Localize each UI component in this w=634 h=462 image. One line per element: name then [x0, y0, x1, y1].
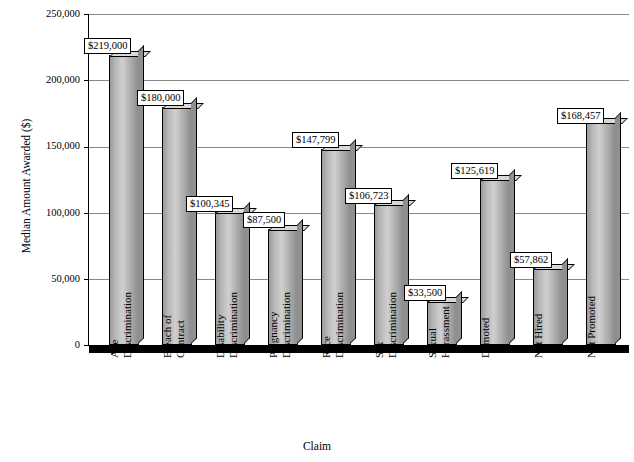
y-tick-mark-100000	[84, 213, 89, 214]
bar-side-face	[191, 97, 197, 344]
x-label-line: Contract	[174, 315, 187, 358]
gridline-200000	[89, 80, 629, 81]
x-label-sex-discrimination: Sex Discrimination	[373, 292, 398, 358]
y-tick-label-200000: 200,000	[30, 74, 80, 85]
value-label-disability-discrimination: $100,345	[186, 196, 233, 212]
y-tick-label-50000: 50,000	[30, 273, 80, 284]
bar-side-face	[297, 219, 303, 344]
x-label-breach-of-contract: Breach of Contract	[161, 315, 186, 358]
value-label-pregnancy-discrimination: $87,500	[243, 212, 285, 228]
x-label-line: Harassment	[439, 306, 452, 358]
x-label-line: Discrimination	[386, 292, 399, 358]
x-label-disability-discrimination: Disability Discrimination	[214, 292, 239, 358]
bar-side-face	[350, 139, 356, 344]
bar-breach-of-contract	[162, 107, 192, 345]
bar-side-face	[615, 112, 621, 344]
bar-side-face	[562, 258, 568, 344]
y-tick-label-0: 0	[30, 339, 80, 350]
value-label-sex-discrimination: $106,723	[345, 188, 392, 204]
x-label-line: Discrimination	[280, 292, 293, 358]
value-label-age-discrimination: $219,000	[84, 38, 131, 54]
x-label-line: Age	[108, 292, 121, 358]
value-label-demoted: $125,619	[451, 163, 498, 179]
x-label-line: Discrimination	[227, 292, 240, 358]
x-label-line: Pregnancy	[267, 292, 280, 358]
value-label-not-promoted: $168,457	[557, 108, 604, 124]
bar-chart: Median Amount Awarded ($) 250,000 200,00…	[0, 0, 634, 462]
x-label-line: Disability	[214, 292, 227, 358]
value-label-sexual-harassment: $33,500	[404, 285, 446, 301]
value-label-not-hired: $57,862	[510, 252, 552, 268]
y-tick-label-150000: 150,000	[30, 140, 80, 151]
bar-side-face	[403, 194, 409, 344]
gridline-250000	[89, 14, 629, 15]
x-label-line: Sex	[373, 292, 386, 358]
y-axis-title-text: Median Amount Awarded ($)	[20, 66, 32, 306]
bar-side-face	[456, 291, 462, 344]
x-label-line: Discrimination	[333, 292, 346, 358]
x-label-line: Sexual	[426, 306, 439, 358]
x-label-line: Not Promoted	[585, 296, 598, 358]
x-label-not-hired: Not Hired	[532, 314, 545, 358]
x-label-sexual-harassment: Sexual Harassment	[426, 306, 451, 358]
x-label-not-promoted: Not Promoted	[585, 296, 598, 358]
x-label-pregnancy-discrimination: Pregnancy Discrimination	[267, 292, 292, 358]
y-tick-label-250000: 250,000	[30, 8, 80, 19]
x-axis-title: Claim	[0, 440, 634, 452]
value-label-breach-of-contract: $180,000	[137, 90, 184, 106]
x-label-age-discrimination: Age Discrimination	[108, 292, 133, 358]
x-label-line: Not Hired	[532, 314, 545, 358]
value-label-race-discrimination: $147,799	[292, 132, 339, 148]
x-label-line: Breach of	[161, 315, 174, 358]
y-tick-mark-200000	[84, 80, 89, 81]
x-label-demoted: Demoted	[479, 318, 492, 358]
y-tick-mark-50000	[84, 279, 89, 280]
y-tick-label-100000: 100,000	[30, 207, 80, 218]
plot-area	[88, 14, 628, 346]
x-label-race-discrimination: Race Discrimination	[320, 292, 345, 358]
x-label-line: Demoted	[479, 318, 492, 358]
y-tick-mark-250000	[84, 14, 89, 15]
x-label-line: Race	[320, 292, 333, 358]
y-tick-mark-150000	[84, 147, 89, 148]
x-label-line: Discrimination	[121, 292, 134, 358]
